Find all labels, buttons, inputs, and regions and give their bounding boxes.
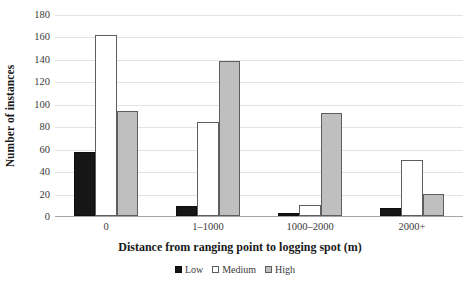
legend-item-medium[interactable]: Medium <box>212 264 256 275</box>
bar-high-3 <box>423 194 444 216</box>
y-axis-tick-label: 80 <box>40 122 51 132</box>
bar-high-2 <box>321 113 342 216</box>
y-axis-tick-label: 160 <box>34 32 50 42</box>
bar-medium-3 <box>401 160 422 216</box>
bar-high-1 <box>219 61 240 216</box>
y-axis-tick-label: 100 <box>34 100 50 110</box>
x-axis-tick-label: 1000–2000 <box>259 221 361 233</box>
y-axis-tick-labels: 020406080100120140160180 <box>20 10 53 222</box>
y-axis-tick-label: 20 <box>40 190 51 200</box>
bar-low-0 <box>74 152 95 216</box>
legend: LowMediumHigh <box>0 264 470 275</box>
legend-label: Low <box>185 264 203 275</box>
y-axis-tick-label: 120 <box>34 77 50 87</box>
y-axis-tick-label: 180 <box>34 10 50 20</box>
bar-medium-2 <box>299 205 320 216</box>
bar-chart: Number of instances 02040608010012014016… <box>0 0 470 290</box>
y-axis-tick-label: 140 <box>34 55 50 65</box>
x-axis-line <box>55 216 463 217</box>
gridline <box>55 15 463 16</box>
plot-area <box>55 15 463 217</box>
y-axis-title-label: Number of instances <box>4 65 16 168</box>
legend-swatch-high-icon <box>265 266 272 273</box>
x-axis-tick-label: 1–1000 <box>157 221 259 233</box>
bar-medium-1 <box>197 122 218 216</box>
y-axis-tick-label: 60 <box>40 145 51 155</box>
x-axis-title: Distance from ranging point to logging s… <box>20 240 460 255</box>
legend-swatch-low-icon <box>175 266 182 273</box>
x-axis-tick-label: 0 <box>55 221 157 233</box>
y-axis-tick-label: 0 <box>45 212 50 222</box>
legend-label: Medium <box>222 264 256 275</box>
bar-medium-0 <box>95 35 116 216</box>
x-axis-tick-label: 2000+ <box>361 221 463 233</box>
bar-low-1 <box>176 206 197 216</box>
bar-high-0 <box>117 111 138 216</box>
y-axis-tick-label: 40 <box>40 167 51 177</box>
legend-item-low[interactable]: Low <box>175 264 203 275</box>
legend-label: High <box>275 264 295 275</box>
x-axis-tick-labels: 01–10001000–20002000+ <box>55 221 463 239</box>
bar-low-3 <box>380 208 401 216</box>
y-axis-title: Number of instances <box>0 0 20 232</box>
legend-item-high[interactable]: High <box>265 264 295 275</box>
legend-swatch-medium-icon <box>212 266 219 273</box>
